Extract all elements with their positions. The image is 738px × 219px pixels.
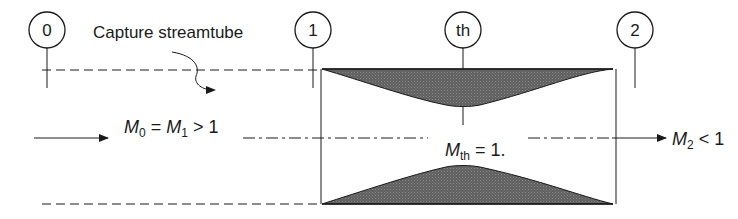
station-0-marker: 0 — [29, 12, 65, 88]
inlet-diagram: 0 1 th 2 Capture streamtube M0 = M1 > 1 … — [0, 0, 738, 219]
upper-duct-wall — [322, 69, 613, 107]
inlet-mach-condition: M0 = M1 > 1 — [124, 117, 218, 140]
throat-mach-condition: Mth = 1. — [445, 140, 506, 163]
station-label: 1 — [308, 21, 317, 40]
station-label: th — [456, 21, 470, 40]
exit-mach-condition: M2 < 1 — [672, 129, 724, 152]
station-2-marker: 2 — [617, 12, 653, 88]
station-1-marker: 1 — [295, 12, 331, 88]
capture-streamtube-label: Capture streamtube — [93, 23, 243, 42]
curved-arrow-icon — [172, 52, 214, 90]
station-label: 0 — [42, 21, 51, 40]
lower-duct-wall — [322, 166, 613, 205]
station-label: 2 — [630, 21, 639, 40]
